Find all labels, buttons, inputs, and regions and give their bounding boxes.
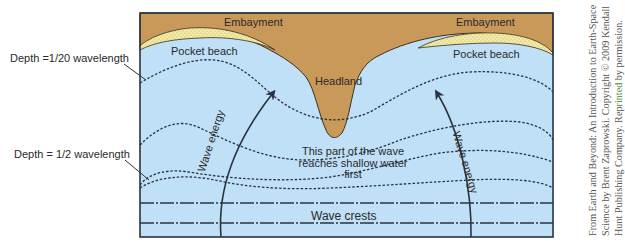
wave-crests-label: Wave crests — [311, 210, 377, 222]
embayment-right-label: Embayment — [456, 17, 515, 28]
headland-label: Headland — [315, 76, 362, 87]
shallow-water-note: This part of the wave reaches shallow wa… — [293, 146, 413, 181]
credit-line-3: Hunt Publishing Company. Reprinted by pe… — [612, 6, 625, 236]
embayment-left-label: Embayment — [224, 17, 283, 28]
depth-half-wavelength-label: Depth = 1/2 wavelength — [14, 149, 130, 160]
shallow-note-line-1: This part of the wave — [293, 146, 413, 158]
pocket-beach-right-label: Pocket beach — [453, 49, 520, 60]
credit-line-2: Science by Brent Zaprowski. Copyright © … — [599, 6, 612, 236]
credit-line-1: From Earth and Beyond: An Introduction t… — [586, 6, 599, 236]
pocket-beach-left-label: Pocket beach — [171, 46, 238, 57]
copyright-credit: From Earth and Beyond: An Introduction t… — [586, 6, 625, 236]
depth-twentieth-wavelength-label: Depth =1/20 wavelength — [10, 53, 129, 64]
shallow-note-line-3: first — [293, 169, 413, 181]
